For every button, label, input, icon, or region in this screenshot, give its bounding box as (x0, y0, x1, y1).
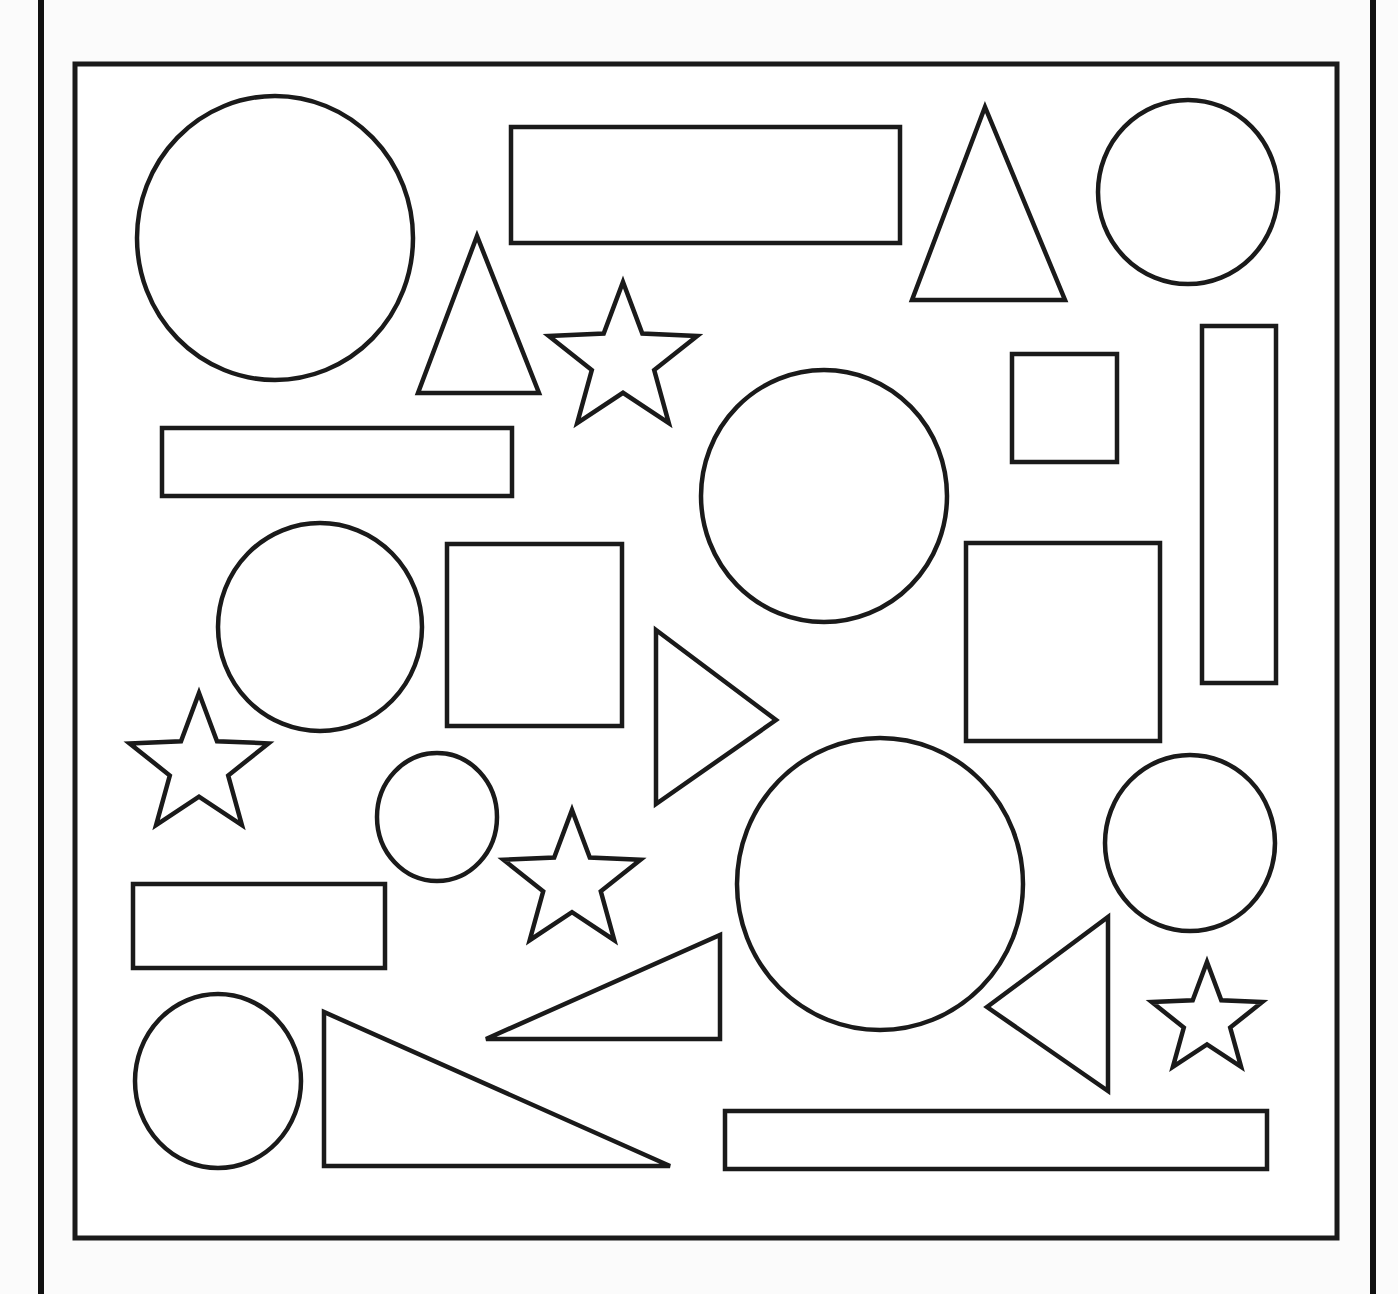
worksheet-frame (75, 64, 1337, 1238)
shapes-worksheet-canvas (0, 0, 1398, 1294)
